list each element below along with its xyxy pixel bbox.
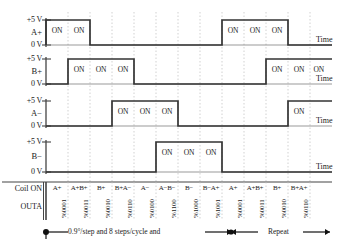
on-marker: ON bbox=[112, 108, 134, 116]
on-marker: ON bbox=[266, 27, 288, 35]
on-marker: ON bbox=[156, 108, 178, 116]
on-marker: ON bbox=[244, 27, 266, 35]
on-marker: ON bbox=[308, 66, 330, 74]
on-marker: ON bbox=[68, 27, 90, 35]
on-marker: ON bbox=[288, 66, 310, 74]
coil-on-cell: B+A+ bbox=[288, 184, 310, 192]
outa-cell: %0100 bbox=[149, 199, 156, 218]
on-marker: ON bbox=[68, 66, 90, 74]
coil-on-cell: A+B+ bbox=[244, 184, 266, 192]
coil-on-cell: A− bbox=[134, 184, 156, 192]
time-label-B+: Time bbox=[316, 75, 333, 83]
outa-cell: %1001 bbox=[215, 199, 222, 218]
axis-label-low-A−: 0 V bbox=[2, 122, 42, 130]
caption-repeat: Repeat bbox=[268, 227, 289, 236]
on-marker: ON bbox=[222, 27, 244, 35]
on-marker: ON bbox=[288, 108, 310, 116]
time-label-B−: Time bbox=[316, 163, 333, 171]
coil-on-cell: A+ bbox=[46, 184, 68, 192]
outa-cell: %0110 bbox=[127, 199, 134, 218]
outa-cell: %1100 bbox=[171, 199, 178, 218]
coil-on-row-label: Coil ON bbox=[0, 184, 42, 193]
timing-diagram: +5 V0 VA+TimeONONONONON+5 V0 VB+TimeONON… bbox=[0, 0, 340, 242]
on-marker: ON bbox=[178, 149, 200, 157]
outa-cell: %0010 bbox=[105, 199, 112, 218]
outa-cell: %0001 bbox=[237, 199, 244, 218]
coil-on-cell: B+A− bbox=[112, 184, 134, 192]
axis-label-low-B−: 0 V bbox=[2, 168, 42, 176]
coil-on-cell: B−A+ bbox=[200, 184, 222, 192]
axis-label-high-B−: +5 V bbox=[2, 138, 42, 146]
on-marker: ON bbox=[90, 66, 112, 74]
on-marker: ON bbox=[134, 108, 156, 116]
outa-cell: %0011 bbox=[259, 199, 266, 218]
on-marker: ON bbox=[46, 27, 68, 35]
axis-label-high-A−: +5 V bbox=[2, 97, 42, 105]
outa-cell: %0001 bbox=[61, 199, 68, 218]
axis-label-low-A+: 0 V bbox=[2, 41, 42, 49]
on-marker: ON bbox=[156, 149, 178, 157]
coil-on-cell: A−B− bbox=[156, 184, 178, 192]
caption-spec: 0.9°/step and 8 steps/cycle and bbox=[68, 227, 160, 236]
coil-on-cell: B+ bbox=[90, 184, 112, 192]
outa-row-label: OUTA bbox=[0, 202, 42, 211]
coil-on-cell: A+B+ bbox=[68, 184, 90, 192]
signal-label-A+: A+ bbox=[2, 28, 42, 37]
time-label-A−: Time bbox=[316, 117, 333, 125]
signal-label-B−: B− bbox=[2, 152, 42, 161]
outa-cell: %0110 bbox=[303, 199, 310, 218]
axis-label-high-A+: +5 V bbox=[2, 16, 42, 24]
on-marker: ON bbox=[200, 149, 222, 157]
outa-cell: %0010 bbox=[281, 199, 288, 218]
axis-label-low-B+: 0 V bbox=[2, 80, 42, 88]
time-label-A+: Time bbox=[316, 36, 333, 44]
on-marker: ON bbox=[266, 66, 288, 74]
axis-label-high-B+: +5 V bbox=[2, 55, 42, 63]
on-marker: ON bbox=[112, 66, 134, 74]
coil-on-cell: B− bbox=[178, 184, 200, 192]
outa-cell: %0011 bbox=[83, 199, 90, 218]
coil-on-cell: A+ bbox=[222, 184, 244, 192]
outa-cell: %1000 bbox=[193, 199, 200, 218]
coil-on-cell: B+ bbox=[266, 184, 288, 192]
signal-label-B+: B+ bbox=[2, 67, 42, 76]
signal-label-A−: A− bbox=[2, 109, 42, 118]
